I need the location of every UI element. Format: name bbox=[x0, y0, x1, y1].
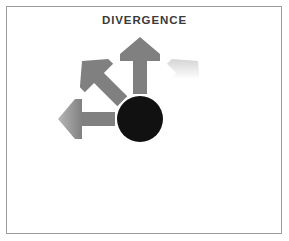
arrow-w bbox=[58, 99, 115, 139]
arrow-e bbox=[165, 99, 222, 139]
arrow-n bbox=[120, 37, 160, 94]
divergence-diagram bbox=[0, 0, 289, 241]
figure-root: DIVERGENCE bbox=[0, 0, 289, 241]
center-hub-circle bbox=[117, 96, 163, 142]
arrow-s bbox=[120, 144, 160, 201]
